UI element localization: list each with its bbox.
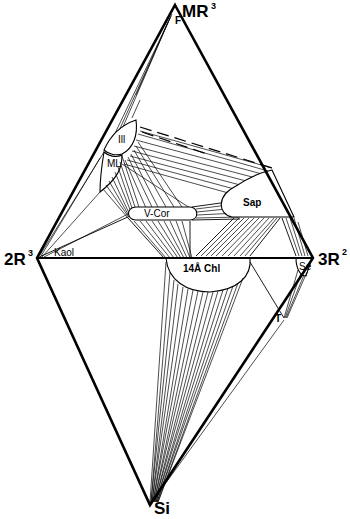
label-talc: T: [275, 313, 281, 324]
vertex-bottom-label: Si: [154, 499, 170, 518]
vertex-right-sup: 2: [342, 247, 347, 257]
tie-lines-chl-si: [150, 262, 243, 502]
phase-diagram: MR 3 2R 3 3R 2 Si F Ill ML Kaol V-Cor Sa…: [0, 0, 350, 519]
tie-lines-f-ill: [108, 14, 172, 148]
label-sepiolite: Se: [299, 261, 312, 272]
vertex-top-label: MR: [182, 2, 208, 21]
talc-si-tie: [152, 320, 284, 502]
tie-lines-se-talc: [284, 270, 307, 318]
label-saponite: Sap: [243, 197, 261, 208]
tie-lines-vcor-chl: [128, 218, 192, 258]
label-chlorite: 14Å Chl: [183, 262, 220, 274]
label-f: F: [175, 15, 181, 26]
tie-lines-sap-chl: [196, 218, 280, 256]
label-vermiculite-corrensite: V-Cor: [144, 208, 170, 219]
vertex-top-sup: 3: [211, 1, 216, 11]
vertex-left-label: 2R: [4, 250, 26, 269]
vertex-right-label: 3R: [318, 250, 340, 269]
vertex-left-sup: 3: [28, 248, 33, 258]
label-kaolinite: Kaol: [54, 247, 74, 258]
label-illite: Ill: [118, 134, 125, 145]
label-mixed-layer: ML: [107, 158, 121, 169]
